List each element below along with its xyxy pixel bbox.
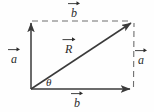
label-b-bottom: b <box>74 94 80 110</box>
vector-arrow-icon <box>68 0 81 6</box>
vector-diagram: b b a <box>0 0 154 112</box>
vector-a-right-dashed <box>134 23 135 87</box>
label-a-right-text: a <box>138 54 144 66</box>
vector-arrow-icon <box>71 90 84 96</box>
label-resultant-text: R <box>65 43 72 55</box>
label-angle-theta: θ <box>46 77 51 88</box>
label-b-top: b <box>71 4 77 20</box>
label-b-bottom-text: b <box>74 97 80 109</box>
vector-arrow-icon <box>62 36 76 42</box>
label-a-right: a <box>138 51 144 67</box>
label-b-top-text: b <box>71 7 77 19</box>
label-a-left-text: a <box>11 53 17 65</box>
vector-arrow-icon <box>8 46 21 52</box>
vector-arrow-icon <box>135 47 148 53</box>
label-resultant: R <box>65 40 72 56</box>
label-a-left: a <box>11 50 17 66</box>
